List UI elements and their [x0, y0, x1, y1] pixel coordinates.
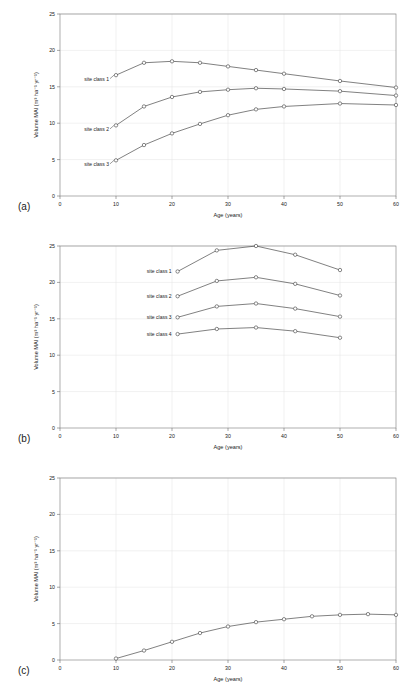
chart-b: 05101520250102030405060Age (years)Volume…: [0, 232, 413, 464]
series-line: [116, 88, 396, 125]
y-axis-tick-label: 20: [49, 279, 55, 285]
x-axis-tick-label: 40: [281, 201, 287, 207]
data-point-marker: [142, 143, 145, 146]
y-axis-title: Volume MAI (m³ ha⁻¹ yr⁻¹): [33, 536, 39, 602]
data-point-marker: [394, 94, 397, 97]
data-point-marker: [198, 90, 201, 93]
x-axis-title: Age (years): [214, 676, 243, 682]
y-axis-tick-label: 0: [52, 425, 55, 431]
x-axis-tick-label: 20: [169, 433, 175, 439]
x-axis-tick-label: 50: [337, 201, 343, 207]
series-2: [114, 87, 397, 128]
data-point-marker: [338, 268, 341, 271]
data-point-marker: [114, 73, 117, 76]
data-point-marker: [215, 249, 218, 252]
data-point-marker: [198, 61, 201, 64]
data-point-marker: [226, 65, 229, 68]
data-point-marker: [254, 302, 257, 305]
data-point-marker: [254, 108, 257, 111]
y-axis-tick-label: 10: [49, 584, 55, 590]
data-point-marker: [176, 295, 179, 298]
y-axis-tick-label: 10: [49, 120, 55, 126]
y-axis-tick-label: 15: [49, 316, 55, 322]
data-point-marker: [294, 307, 297, 310]
data-point-marker: [176, 270, 179, 273]
x-axis-tick-label: 0: [59, 433, 62, 439]
x-axis-tick-label: 30: [225, 433, 231, 439]
data-point-marker: [198, 631, 201, 634]
data-point-marker: [114, 124, 117, 127]
x-axis-tick-label: 20: [169, 201, 175, 207]
series-label: site class 2: [84, 126, 109, 132]
data-point-marker: [170, 95, 173, 98]
y-axis-title: Volume MAI (m³ ha⁻¹ yr⁻¹): [33, 72, 39, 138]
series-line: [116, 104, 396, 161]
y-axis-tick-label: 25: [49, 243, 55, 249]
x-axis-tick-label: 30: [225, 201, 231, 207]
data-point-marker: [226, 625, 229, 628]
x-axis-tick-label: 40: [281, 433, 287, 439]
series-label-group: site class 2: [84, 125, 114, 132]
series-line: [178, 304, 340, 318]
gridlines: [60, 246, 396, 428]
series-label: site class 3: [84, 161, 109, 167]
series-1: [176, 244, 342, 273]
panel-label: (b): [18, 433, 30, 444]
data-point-marker: [198, 122, 201, 125]
series-label-leader: [110, 125, 114, 129]
data-point-marker: [338, 102, 341, 105]
y-axis-tick-label: 25: [49, 11, 55, 17]
data-point-marker: [394, 103, 397, 106]
data-point-marker: [338, 613, 341, 616]
x-axis-tick-label: 50: [337, 665, 343, 671]
series-label: site class 4: [147, 331, 172, 337]
series-line: [116, 61, 396, 87]
panel-b: 05101520250102030405060Age (years)Volume…: [0, 232, 413, 464]
data-point-marker: [310, 615, 313, 618]
gridlines: [60, 14, 396, 196]
y-axis-tick-label: 15: [49, 84, 55, 90]
x-axis-tick-label: 50: [337, 433, 343, 439]
data-point-marker: [366, 612, 369, 615]
series-label-group: site class 2: [147, 293, 172, 299]
series-label-group: site class 4: [147, 331, 172, 337]
x-axis-tick-label: 10: [113, 433, 119, 439]
data-point-marker: [142, 649, 145, 652]
series-line: [178, 277, 340, 296]
x-axis-tick-label: 60: [393, 433, 399, 439]
data-point-marker: [394, 86, 397, 89]
y-axis: 0510152025: [49, 243, 60, 431]
data-point-marker: [142, 61, 145, 64]
y-axis-tick-label: 5: [52, 157, 55, 163]
data-point-marker: [254, 68, 257, 71]
series-label: site class 3: [147, 314, 172, 320]
x-axis-title: Age (years): [214, 444, 243, 450]
x-axis-tick-label: 10: [113, 665, 119, 671]
series-label: site class 1: [147, 268, 172, 274]
data-point-marker: [215, 305, 218, 308]
series-3: [176, 302, 342, 319]
y-axis-tick-label: 20: [49, 47, 55, 53]
series-3: [114, 102, 397, 162]
y-axis-tick-label: 25: [49, 475, 55, 481]
gridlines: [60, 478, 396, 660]
series-label: site class 1: [84, 76, 109, 82]
figure-three-panel-mai: 05101520250102030405060Age (years)Volume…: [0, 0, 413, 697]
series-4: [176, 326, 342, 340]
series-label-leader: [110, 160, 114, 164]
data-point-marker: [338, 294, 341, 297]
data-point-marker: [170, 132, 173, 135]
series-2: [176, 276, 342, 298]
data-point-marker: [338, 79, 341, 82]
data-point-marker: [142, 105, 145, 108]
x-axis-tick-label: 0: [59, 665, 62, 671]
data-point-marker: [282, 72, 285, 75]
x-axis-tick-label: 30: [225, 665, 231, 671]
series-line: [178, 246, 340, 271]
series-label: site class 2: [147, 293, 172, 299]
data-point-marker: [254, 326, 257, 329]
y-axis-tick-label: 15: [49, 548, 55, 554]
data-point-marker: [254, 244, 257, 247]
x-axis: 0102030405060: [59, 196, 399, 207]
y-axis: 0510152025: [49, 11, 60, 199]
